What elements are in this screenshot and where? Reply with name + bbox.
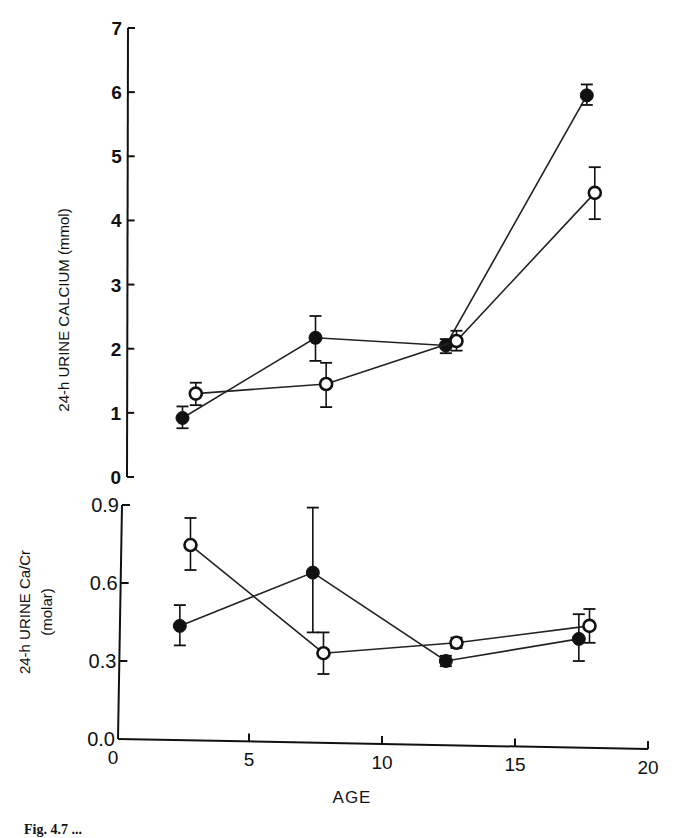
figure-caption: Fig. 4.7 ...: [24, 822, 82, 838]
lower-y-axis-title-units: (molar): [38, 588, 55, 636]
lower-series: [173, 508, 595, 674]
upper-y-axis: [127, 28, 128, 477]
filled-circle-marker: [439, 655, 452, 668]
filled-circle-marker: [176, 411, 189, 424]
series-open-circle: [190, 167, 601, 407]
upper-y-tick-label: 5: [111, 146, 122, 167]
series-filled-circle: [173, 508, 585, 668]
open-circle-marker: [450, 637, 462, 649]
upper-y-tick-label: 0: [110, 467, 121, 488]
x-axis-title: AGE: [333, 788, 372, 807]
lower-y-tick-label: 0.6: [90, 572, 118, 594]
filled-circle-marker: [572, 632, 585, 645]
x-tick-label: 10: [371, 752, 392, 773]
lower-y-tick-label: 0.3: [89, 650, 117, 672]
lower-y-axis: [118, 505, 122, 739]
x-tick-label: 0: [108, 747, 119, 768]
x-tick-label: 20: [637, 757, 658, 778]
series-open-circle: [184, 518, 595, 674]
open-circle-marker: [583, 620, 595, 632]
filled-circle-marker: [309, 331, 322, 344]
lower-y-ticks: 0.00.30.60.9: [87, 494, 130, 750]
x-tick-label: 5: [244, 749, 255, 770]
open-circle-marker: [589, 187, 601, 199]
filled-circle-marker: [306, 566, 319, 579]
series-line: [190, 545, 589, 653]
series-filled-circle: [176, 84, 593, 428]
series-line: [196, 193, 595, 394]
open-circle-marker: [320, 378, 332, 390]
upper-y-tick-label: 7: [111, 18, 122, 39]
lower-panel-ca-cr: 0.00.30.60.9 05101520 24-h URINE Ca/Cr (…: [16, 494, 659, 807]
upper-y-tick-label: 2: [111, 339, 122, 360]
open-circle-marker: [450, 335, 462, 347]
series-line: [183, 95, 587, 418]
upper-y-ticks: 01234567: [110, 18, 135, 488]
upper-series: [176, 84, 601, 428]
lower-y-axis-title: 24-h URINE Ca/Cr: [16, 550, 33, 674]
filled-circle-marker: [173, 619, 186, 632]
upper-y-tick-label: 3: [111, 275, 122, 296]
upper-y-tick-label: 6: [111, 82, 122, 103]
open-circle-marker: [190, 388, 202, 400]
lower-y-tick-label: 0.9: [91, 494, 119, 516]
upper-panel-calcium: 01234567 24-h URINE CALCIUM (mmol): [55, 18, 601, 488]
upper-y-tick-label: 4: [111, 210, 122, 231]
upper-y-axis-title: 24-h URINE CALCIUM (mmol): [55, 208, 72, 411]
upper-y-tick-label: 1: [111, 403, 122, 424]
open-circle-marker: [184, 539, 196, 551]
x-tick-label: 15: [504, 754, 525, 775]
filled-circle-marker: [580, 89, 593, 102]
open-circle-marker: [317, 647, 329, 659]
